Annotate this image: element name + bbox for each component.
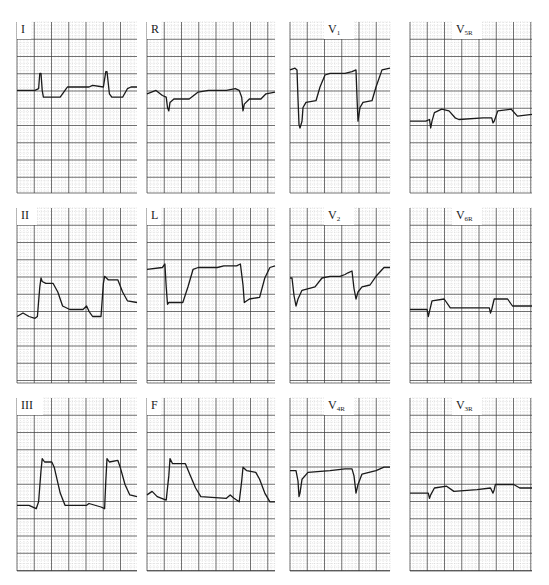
ecg-panel-v2: V2	[290, 207, 390, 383]
ecg-panel-v5r: V5R	[410, 21, 532, 193]
grid-major	[147, 22, 275, 193]
grid-major	[290, 22, 390, 193]
grid-major	[17, 208, 137, 383]
ecg-trace	[290, 268, 390, 307]
grid-major	[290, 398, 390, 571]
ecg-panel-i: I	[17, 21, 137, 193]
lead-label: I	[21, 22, 25, 36]
lead-label: F	[151, 398, 158, 412]
lead-label: L	[151, 208, 158, 222]
ecg-trace	[290, 68, 390, 128]
ecg-trace	[290, 467, 390, 496]
lead-label: II	[21, 208, 29, 222]
ecg-trace	[17, 276, 137, 318]
grid-major	[410, 208, 532, 383]
ecg-figure: IRV1V5RIILV2V6RIIIFV4RV3R	[0, 0, 549, 585]
grid-minor	[290, 22, 390, 193]
grid-major	[410, 22, 532, 193]
lead-label: III	[21, 398, 33, 412]
grid-major	[17, 22, 137, 193]
grid-minor	[17, 208, 137, 383]
ecg-panel-r: R	[147, 21, 275, 193]
ecg-trace	[17, 72, 137, 98]
ecg-panel-v6r: V6R	[410, 207, 532, 383]
ecg-panel-iii: III	[17, 397, 137, 571]
ecg-panel-v1: V1	[290, 21, 390, 193]
ecg-panel-v3r: V3R	[410, 397, 532, 571]
ecg-trace	[147, 459, 275, 502]
grid-minor	[147, 22, 275, 193]
ecg-trace	[147, 89, 275, 111]
grid-minor	[17, 22, 137, 193]
grid-major	[290, 208, 390, 383]
lead-label: R	[151, 22, 159, 36]
grid-minor	[290, 208, 390, 383]
ecg-panel-ii: II	[17, 207, 137, 383]
ecg-panel-l: L	[147, 207, 275, 383]
grid-major	[17, 398, 137, 571]
ecg-panel-v4r: V4R	[290, 397, 390, 571]
grid-major	[147, 398, 275, 571]
ecg-panel-f: F	[147, 397, 275, 571]
